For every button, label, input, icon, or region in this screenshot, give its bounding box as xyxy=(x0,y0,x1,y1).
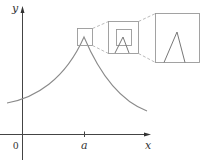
zoom-connector-2-bottom xyxy=(139,54,156,63)
zoom-connector-2-top xyxy=(139,14,156,22)
y-axis-label: y xyxy=(12,3,18,14)
zoom-box-1 xyxy=(78,29,93,46)
x-axis-label: x xyxy=(145,140,151,151)
zoom-panel-3 xyxy=(156,14,200,63)
zoom-box-3 xyxy=(156,14,200,63)
a-tick-label: a xyxy=(81,140,88,151)
cusp-zoom-diagram xyxy=(0,0,201,160)
x-axis-arrow-icon xyxy=(144,133,151,137)
origin-label: 0 xyxy=(13,140,19,151)
zoom-connector-1-top xyxy=(93,22,109,29)
y-axis-arrow-icon xyxy=(21,6,25,13)
zoom-connector-1-bottom xyxy=(93,46,109,54)
zoom-panel-2 xyxy=(109,22,139,54)
